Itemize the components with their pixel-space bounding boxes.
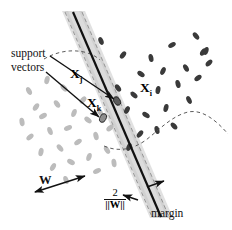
label-x-i: Xi	[140, 80, 152, 96]
support-vectors-line-2: vectors	[11, 61, 46, 75]
x-k-base: X	[87, 95, 97, 110]
x-i-base: X	[140, 80, 150, 95]
x-i-subscript: i	[150, 89, 152, 98]
label-margin-width-formula: 2 ||W||	[104, 188, 126, 210]
svm-margin-figure: support vectors Xj Xk Xi W 2 ||W|| margi…	[0, 0, 232, 230]
label-support-vectors: support vectors	[11, 47, 46, 74]
x-j-base: X	[70, 66, 80, 81]
margin-formula-numerator: 2	[104, 188, 126, 199]
support-vectors-line-1: support	[11, 47, 46, 61]
label-x-j: Xj	[70, 66, 82, 82]
label-x-k: Xk	[87, 95, 101, 111]
margin-formula-denominator: ||W||	[104, 200, 126, 211]
label-margin: margin	[151, 208, 183, 220]
label-weight-vector: W	[39, 174, 52, 187]
x-k-subscript: k	[97, 104, 101, 113]
